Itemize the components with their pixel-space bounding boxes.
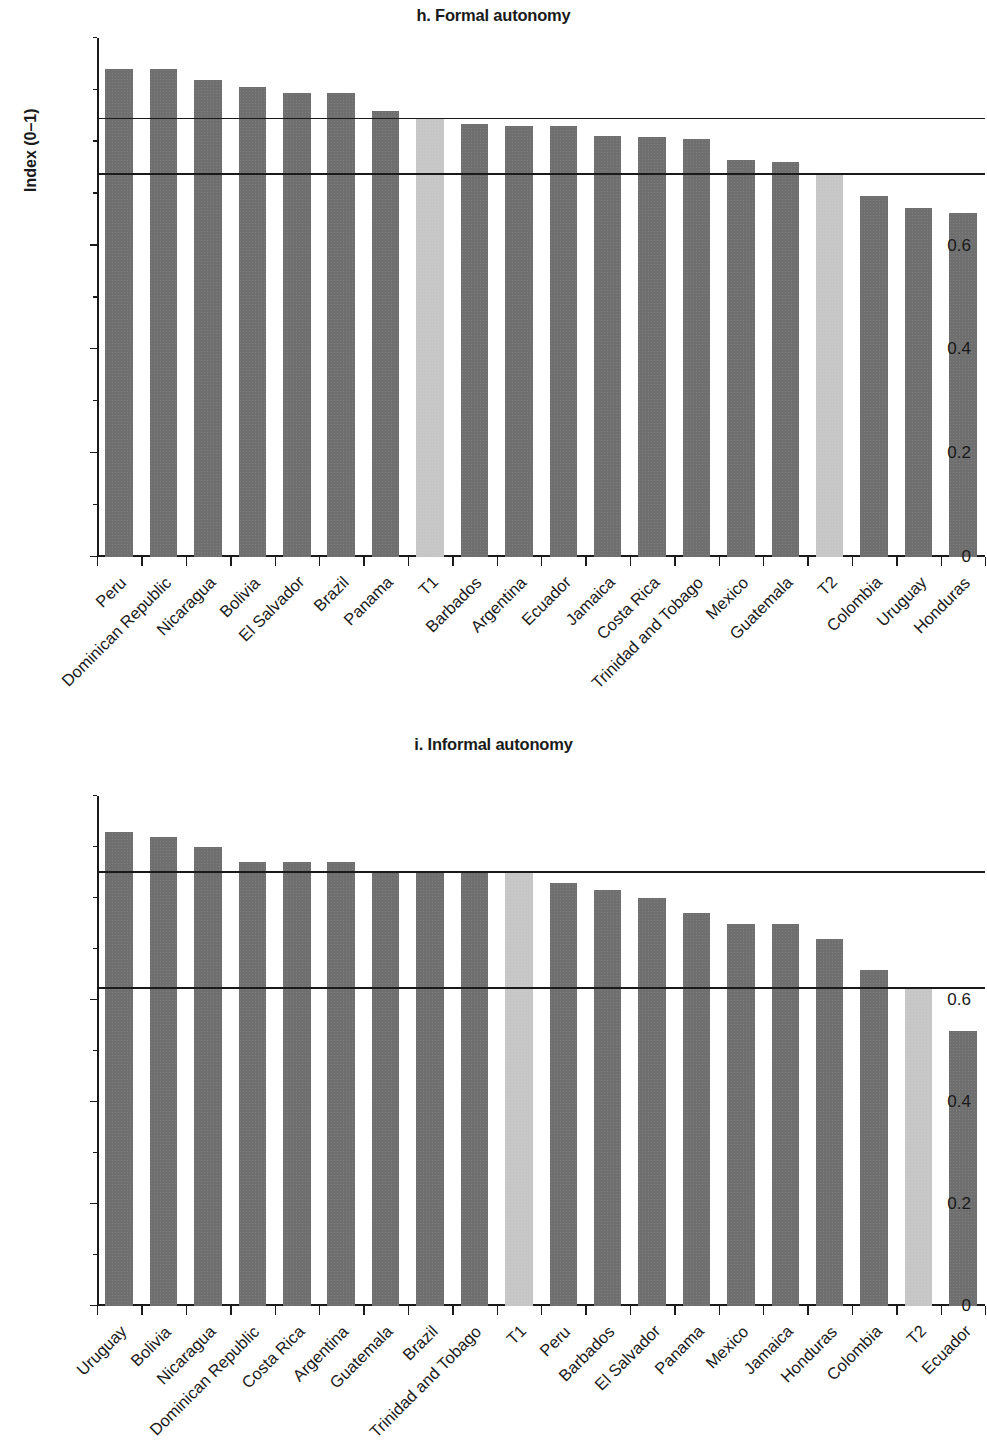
bar-series-i xyxy=(97,796,985,1306)
x-tick xyxy=(97,557,98,566)
x-tick xyxy=(97,1306,98,1315)
bar-slot xyxy=(852,38,896,557)
bar-slot xyxy=(275,38,319,557)
bar-honduras xyxy=(949,213,977,557)
x-tick xyxy=(630,1306,631,1315)
x-tick xyxy=(275,557,276,566)
y-tick-major xyxy=(90,556,97,557)
bar-slot xyxy=(541,796,585,1306)
bar-guatemala xyxy=(772,162,800,557)
bar-ecuador xyxy=(550,126,578,557)
y-tick-minor xyxy=(93,140,98,141)
x-tick xyxy=(719,1306,720,1315)
y-tick-major xyxy=(90,348,97,349)
bar-el-salvador xyxy=(283,93,311,558)
bar-argentina xyxy=(505,126,533,557)
x-tick-label: Uruguay xyxy=(73,1322,131,1380)
bar-brazil xyxy=(327,93,355,558)
bar-slot xyxy=(230,796,274,1306)
y-tick-major xyxy=(90,1305,97,1306)
x-tick xyxy=(363,557,364,566)
bar-slot xyxy=(941,38,985,557)
bar-slot xyxy=(97,796,141,1306)
x-tick xyxy=(807,1306,808,1315)
bar-slot xyxy=(674,38,718,557)
bar-brazil xyxy=(416,871,444,1306)
x-tick xyxy=(852,1306,853,1315)
x-tick xyxy=(941,1306,942,1315)
reference-line-lower xyxy=(97,173,985,175)
bar-slot xyxy=(363,796,407,1306)
bar-slot xyxy=(452,38,496,557)
bar-uruguay xyxy=(105,832,133,1306)
reference-line-upper xyxy=(97,871,985,873)
bar-t1 xyxy=(416,119,444,557)
bar-series-h xyxy=(97,38,985,557)
y-tick-major xyxy=(90,1101,97,1102)
x-tick-label: T2 xyxy=(814,573,841,600)
bar-slot xyxy=(452,796,496,1306)
y-tick-minor xyxy=(93,400,98,401)
y-tick-label: 0.4 xyxy=(947,1092,971,1112)
y-tick-label: 0.6 xyxy=(947,990,971,1010)
panel-title-i: i. Informal autonomy xyxy=(0,735,987,754)
y-tick-major xyxy=(90,452,97,453)
bar-trinidad-and-tobago xyxy=(683,139,711,557)
bar-slot xyxy=(97,38,141,557)
bar-el-salvador xyxy=(638,898,666,1306)
y-tick-label: 0.6 xyxy=(947,236,971,256)
bar-slot xyxy=(186,38,230,557)
reference-line-upper xyxy=(97,118,985,120)
y-tick-minor xyxy=(93,504,98,505)
bar-panama xyxy=(683,913,711,1306)
bar-slot xyxy=(719,796,763,1306)
panel-formal-autonomy: h. Formal autonomy Index (0–1) 00.20.40.… xyxy=(0,0,987,710)
x-tick-label: T1 xyxy=(415,573,442,600)
bar-slot xyxy=(585,796,629,1306)
reference-line-lower xyxy=(97,987,985,989)
bar-dominican-republic xyxy=(239,862,267,1306)
plot-area-h: 00.20.40.6 PeruDominican RepublicNicarag… xyxy=(97,38,985,557)
bar-slot xyxy=(808,796,852,1306)
x-tick xyxy=(230,557,231,566)
y-tick-label: 0.2 xyxy=(947,443,971,463)
bar-barbados xyxy=(461,124,489,557)
bar-panama xyxy=(372,111,400,557)
y-tick-minor xyxy=(93,795,98,796)
panel-title-h: h. Formal autonomy xyxy=(0,6,987,25)
bar-colombia xyxy=(860,196,888,557)
bar-guatemala xyxy=(372,871,400,1306)
bar-slot xyxy=(319,38,363,557)
x-tick xyxy=(585,1306,586,1315)
plot-area-i: 00.20.40.6 UruguayBoliviaNicaraguaDomini… xyxy=(97,796,985,1306)
x-tick xyxy=(186,1306,187,1315)
y-tick-minor xyxy=(93,296,98,297)
bar-slot xyxy=(630,38,674,557)
y-tick-minor xyxy=(93,846,98,847)
bar-nicaragua xyxy=(194,80,222,557)
y-axis-label-h: Index (0–1) xyxy=(22,108,40,192)
bar-ecuador xyxy=(949,1031,977,1306)
x-tick xyxy=(807,557,808,566)
x-tick xyxy=(363,1306,364,1315)
bar-slot xyxy=(541,38,585,557)
x-tick xyxy=(941,557,942,566)
bar-uruguay xyxy=(905,208,933,557)
x-tick xyxy=(896,557,897,566)
bar-slot xyxy=(585,38,629,557)
x-tick xyxy=(585,557,586,566)
bar-trinidad-and-tobago xyxy=(461,871,489,1306)
bar-peru xyxy=(550,883,578,1306)
bar-t1 xyxy=(505,873,533,1307)
x-tick xyxy=(141,557,142,566)
x-tick xyxy=(497,1306,498,1315)
x-tick-label: Panama xyxy=(340,573,397,630)
x-tick-group-h xyxy=(97,557,985,567)
bar-slot xyxy=(141,38,185,557)
bar-t2 xyxy=(816,175,844,558)
y-tick-minor xyxy=(93,948,98,949)
bar-slot xyxy=(275,796,319,1306)
x-tick xyxy=(630,557,631,566)
x-tick xyxy=(319,557,320,566)
bar-slot xyxy=(630,796,674,1306)
